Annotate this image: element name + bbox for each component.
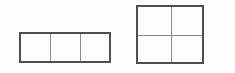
figure-canvas [0,0,235,73]
grid-cell [81,34,109,61]
grid-cell [172,36,202,62]
grid-cell [138,36,172,62]
four-part-square-figure [136,5,204,64]
grid-cell [51,34,81,61]
three-part-rectangle-figure [19,32,111,63]
grid-cell [138,7,172,36]
grid-cell [172,7,202,36]
grid-cell [21,34,51,61]
